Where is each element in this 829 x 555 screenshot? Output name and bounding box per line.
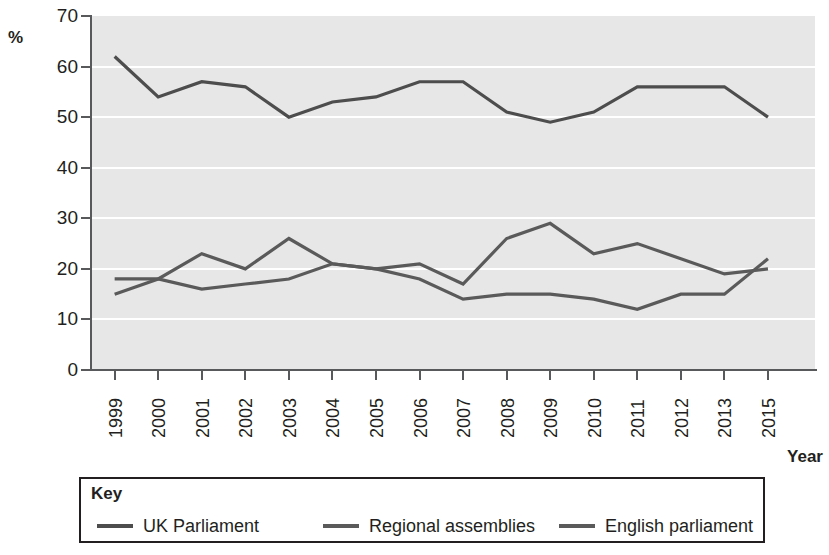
- legend-item-label: UK Parliament: [143, 517, 259, 535]
- x-axis-title: Year: [787, 447, 823, 467]
- legend-item: English parliament: [559, 517, 753, 535]
- legend-item-list: UK ParliamentRegional assembliesEnglish …: [87, 512, 761, 540]
- legend-item-label: Regional assemblies: [369, 517, 535, 535]
- series-line: [115, 223, 768, 294]
- legend: Key UK ParliamentRegional assembliesEngl…: [79, 477, 765, 543]
- series-line: [115, 259, 768, 310]
- legend-item: UK Parliament: [97, 517, 259, 535]
- legend-line-swatch: [97, 524, 133, 528]
- line-chart: % 010203040506070 1999200020012002200320…: [0, 0, 829, 555]
- legend-line-swatch: [323, 524, 359, 528]
- legend-line-swatch: [559, 524, 595, 528]
- legend-item: Regional assemblies: [323, 517, 535, 535]
- legend-title: Key: [91, 484, 122, 504]
- legend-item-label: English parliament: [605, 517, 753, 535]
- series-line: [115, 56, 768, 122]
- data-series-layer: [0, 0, 829, 555]
